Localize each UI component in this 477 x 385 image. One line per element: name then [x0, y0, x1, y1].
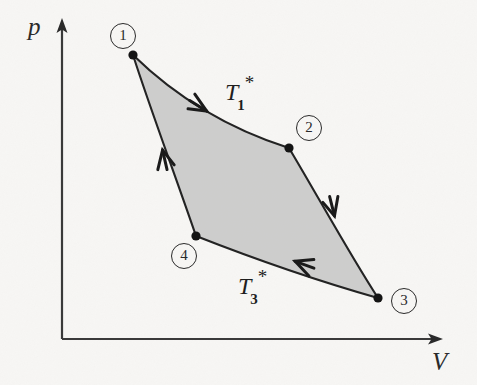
diagram-canvas	[0, 0, 477, 385]
pv-diagram-figure: p V 1 2 3 4 T1* T3*	[0, 0, 477, 385]
state-label-4: 4	[171, 243, 197, 269]
state-label-3: 3	[391, 288, 417, 314]
temp-label-t1-subscript: 1	[237, 97, 245, 113]
state-dot-2	[284, 143, 293, 152]
state-label-1: 1	[110, 23, 136, 49]
state-dot-3	[373, 293, 382, 302]
state-dot-4	[191, 231, 200, 240]
state-dot-1	[128, 50, 137, 59]
temp-label-t3: T3*	[238, 268, 268, 304]
state-label-2: 2	[296, 115, 322, 141]
temp-label-t3-superscript: *	[258, 266, 268, 287]
y-axis-label: p	[28, 13, 41, 41]
x-axis-label: V	[432, 348, 447, 376]
temp-label-t3-subscript: 3	[250, 291, 258, 307]
temp-label-t1-superscript: *	[245, 72, 255, 93]
temp-label-t1: T1*	[225, 74, 255, 110]
